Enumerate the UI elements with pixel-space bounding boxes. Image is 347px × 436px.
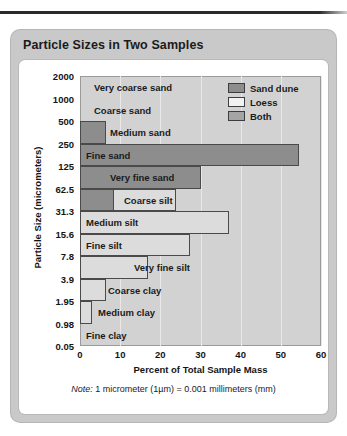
bar-label: Coarse clay	[108, 284, 161, 295]
x-tick-label: 60	[316, 349, 327, 360]
bar-label: Fine silt	[86, 239, 122, 250]
bar-label: Medium clay	[98, 307, 155, 318]
y-tick-label: 250	[58, 138, 74, 149]
y-tick-label: 0.05	[56, 341, 75, 352]
bar-label: Coarse sand	[94, 104, 151, 115]
bar-row: Fine sand	[80, 144, 321, 167]
bar-row: Fine clay	[80, 324, 321, 347]
y-tick-label: 3.9	[61, 273, 74, 284]
bar-row: Coarse clay	[80, 279, 321, 302]
legend-swatch-sand-dune	[228, 83, 245, 93]
chart-note: Note: 1 micrometer (1µm) = 0.001 millime…	[27, 384, 320, 394]
x-axis-ticks: 0102030405060	[80, 349, 321, 363]
chart-legend: Sand dune Loess Both	[228, 82, 299, 124]
page-title: Particle Sizes in Two Samples	[23, 38, 204, 52]
bar-label: Coarse silt	[124, 194, 173, 205]
bar-label: Medium silt	[86, 217, 138, 228]
bar-label: Very fine sand	[110, 172, 174, 183]
bar-loess	[80, 301, 92, 324]
x-tick-label: 50	[276, 349, 287, 360]
x-axis-title: Percent of Total Sample Mass	[80, 364, 321, 375]
chart-panel: Particle Size (micrometers) 200010005002…	[19, 60, 328, 414]
y-tick-label: 1.95	[56, 296, 75, 307]
y-axis-ticks: 2000100050025012562.531.315.67.83.91.950…	[19, 76, 78, 346]
bar-row: Medium sand	[80, 121, 321, 144]
bar-label: Very coarse sand	[94, 82, 172, 93]
legend-label-sand-dune: Sand dune	[250, 83, 299, 94]
y-tick-label: 500	[58, 116, 74, 127]
y-tick-label: 31.3	[56, 206, 75, 217]
decorative-top-rule	[0, 11, 347, 14]
legend-label-both: Both	[250, 111, 272, 122]
y-tick-label: 125	[58, 161, 74, 172]
x-tick-label: 30	[195, 349, 206, 360]
y-tick-label: 2000	[53, 71, 74, 82]
y-tick-label: 15.6	[56, 228, 75, 239]
bar-row: Very fine sand	[80, 166, 321, 189]
bar-sand-dune	[80, 121, 106, 144]
chart-card: Particle Sizes in Two Samples Particle S…	[11, 30, 336, 422]
y-tick-label: 0.98	[56, 318, 75, 329]
plot-area: Very coarse sandCoarse sandMedium sandFi…	[80, 76, 321, 346]
y-tick-label: 62.5	[56, 183, 75, 194]
bar-label: Medium sand	[110, 127, 171, 138]
x-tick-label: 0	[77, 349, 82, 360]
bar-row: Coarse silt	[80, 189, 321, 212]
legend-swatch-both	[228, 111, 245, 121]
bar-row: Medium silt	[80, 211, 321, 234]
y-tick-label: 7.8	[61, 251, 74, 262]
legend-item: Sand dune	[228, 82, 299, 94]
bar-row: Medium clay	[80, 301, 321, 324]
bar-sand-dune	[80, 189, 114, 212]
bar-label: Fine sand	[86, 149, 130, 160]
x-tick-label: 10	[115, 349, 126, 360]
legend-label-loess: Loess	[250, 97, 277, 108]
bar-label: Very fine silt	[134, 262, 190, 273]
bar-row: Very fine silt	[80, 256, 321, 279]
legend-item: Both	[228, 110, 299, 122]
legend-item: Loess	[228, 96, 299, 108]
bar-label: Fine clay	[86, 329, 127, 340]
gridline	[321, 76, 322, 346]
x-tick-label: 20	[155, 349, 166, 360]
bar-row: Fine silt	[80, 234, 321, 257]
note-prefix: Note:	[71, 384, 93, 394]
bar-loess	[80, 279, 106, 302]
x-tick-label: 40	[235, 349, 246, 360]
y-tick-label: 1000	[53, 93, 74, 104]
legend-swatch-loess	[228, 97, 245, 107]
note-text: 1 micrometer (1µm) = 0.001 millimeters (…	[93, 384, 276, 394]
